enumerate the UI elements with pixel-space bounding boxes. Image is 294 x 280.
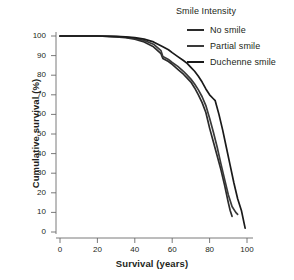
legend-line-swatch-icon [187, 61, 204, 63]
y-tick-label: 50 [26, 129, 46, 138]
y-tick-label: 90 [26, 51, 46, 60]
y-tick-label: 30 [26, 168, 46, 177]
survival-chart-figure: Smile Intensity No smile Partial smile D… [0, 0, 294, 280]
legend-line-swatch-icon [187, 45, 204, 47]
legend-title: Smile Intensity [176, 6, 236, 16]
x-tick-label: 80 [198, 245, 222, 254]
legend-item-duchenne-smile: Duchenne smile [187, 54, 292, 70]
y-tick-label: 40 [26, 149, 46, 158]
y-tick-label: 100 [26, 31, 46, 40]
legend-item-partial-smile: Partial smile [187, 38, 292, 54]
x-tick-label: 0 [48, 245, 72, 254]
x-tick-label: 60 [160, 245, 184, 254]
x-tick-label: 20 [85, 245, 109, 254]
y-tick-label: 20 [26, 188, 46, 197]
chart-legend: No smile Partial smile Duchenne smile [187, 22, 292, 70]
legend-item-label: Duchenne smile [210, 57, 276, 67]
y-tick-label: 0 [26, 227, 46, 236]
legend-item-label: No smile [210, 25, 246, 35]
x-tick-label: 100 [235, 245, 259, 254]
x-tick-label: 40 [123, 245, 147, 254]
y-tick-label: 10 [26, 207, 46, 216]
y-tick-label: 80 [26, 70, 46, 79]
y-tick-label: 70 [26, 90, 46, 99]
legend-item-no-smile: No smile [187, 22, 292, 38]
x-axis-title: Survival (years) [56, 258, 248, 269]
legend-item-label: Partial smile [210, 41, 260, 51]
legend-line-swatch-icon [187, 29, 204, 31]
y-tick-label: 60 [26, 109, 46, 118]
